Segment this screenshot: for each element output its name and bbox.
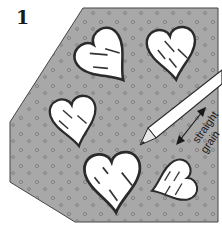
fabric-illustration: straight grain: [0, 0, 222, 230]
